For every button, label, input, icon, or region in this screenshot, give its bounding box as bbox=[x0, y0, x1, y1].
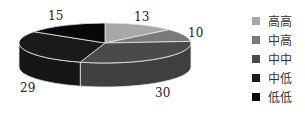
pie-chart bbox=[0, 0, 230, 114]
legend-label: 中低 bbox=[268, 69, 292, 86]
legend-swatch bbox=[252, 17, 260, 25]
legend-item-zhonggao: 中高 bbox=[252, 30, 292, 49]
legend-swatch bbox=[252, 55, 260, 63]
legend-item-gaogao: 高高 bbox=[252, 11, 292, 30]
chart-legend: 高高 中高 中中 中低 低低 bbox=[252, 11, 292, 106]
legend-swatch bbox=[252, 93, 260, 101]
legend-item-didi: 低低 bbox=[252, 87, 292, 106]
legend-item-zhongdi: 中低 bbox=[252, 68, 292, 87]
data-label-zhongzhong: 30 bbox=[155, 86, 170, 100]
data-label-didi: 15 bbox=[48, 9, 63, 23]
legend-item-zhongzhong: 中中 bbox=[252, 49, 292, 68]
legend-label: 高高 bbox=[268, 12, 292, 29]
data-label-zhonggao: 10 bbox=[188, 26, 203, 40]
data-label-gaogao: 13 bbox=[134, 10, 149, 24]
legend-label: 中高 bbox=[268, 31, 292, 48]
legend-swatch bbox=[252, 36, 260, 44]
legend-label: 中中 bbox=[268, 50, 292, 67]
data-label-zhongdi: 29 bbox=[20, 81, 35, 95]
legend-label: 低低 bbox=[268, 88, 292, 105]
legend-swatch bbox=[252, 74, 260, 82]
